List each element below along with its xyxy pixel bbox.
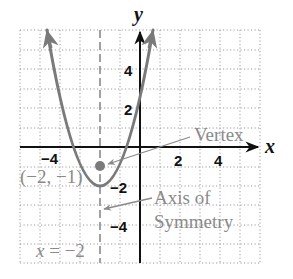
curve-arrow-left-icon: [48, 33, 52, 48]
tick-x-neg4: −4: [41, 150, 59, 167]
axis-of-label: Axis of: [154, 187, 211, 208]
symmetry-label: Symmetry: [154, 211, 234, 232]
tick-x-2: 2: [174, 152, 182, 169]
parabola-chart: −4 2 4 4 2 −2 −4 x y Vertex (−2, −1) Axi…: [0, 0, 293, 279]
curve-arrow-right-icon: [149, 33, 153, 48]
tick-y-4: 4: [124, 62, 133, 79]
tick-y-2: 2: [124, 101, 132, 118]
axis-equation-label: x = −2: [35, 240, 85, 261]
y-axis-label: y: [132, 3, 143, 26]
x-axis-label: x: [264, 135, 275, 157]
tick-y-neg2: −2: [110, 179, 127, 196]
vertex-point: [95, 161, 105, 171]
axis-pointer-arrow: [104, 198, 152, 209]
vertex-coordinates-label: (−2, −1): [20, 166, 83, 188]
tick-x-4: 4: [214, 152, 223, 169]
vertex-label: Vertex: [194, 124, 244, 145]
tick-y-neg4: −4: [110, 218, 128, 235]
